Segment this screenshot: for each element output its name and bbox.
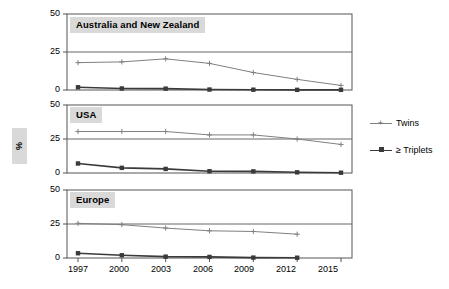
marker-twins-2-2006 (207, 228, 212, 233)
marker-triplets-1-2012 (295, 170, 299, 174)
marker-twins-0-2009 (251, 70, 256, 75)
plot-area (0, 0, 449, 289)
marker-twins-2-1997 (75, 221, 80, 226)
marker-triplets-0-1997 (76, 85, 80, 89)
marker-triplets-0-2009 (251, 87, 255, 91)
marker-triplets-0-2012 (295, 88, 299, 92)
marker-twins-2-2009 (251, 229, 256, 234)
marker-triplets-1-2015 (339, 171, 343, 175)
marker-twins-2-2000 (119, 222, 124, 227)
marker-triplets-0-2006 (207, 87, 211, 91)
marker-triplets-2-1997 (76, 251, 80, 255)
marker-triplets-1-2000 (120, 166, 124, 170)
marker-twins-0-2000 (119, 59, 124, 64)
marker-triplets-1-2009 (251, 169, 255, 173)
marker-twins-0-2015 (338, 83, 343, 88)
marker-triplets-2-2012 (295, 256, 299, 260)
marker-twins-2-2003 (163, 225, 168, 230)
marker-twins-1-2009 (251, 132, 256, 137)
marker-triplets-1-2006 (207, 169, 211, 173)
marker-twins-2-2012 (295, 232, 300, 237)
marker-twins-1-2006 (207, 132, 212, 137)
marker-twins-1-2000 (119, 129, 124, 134)
series-line-2-triplets (78, 253, 297, 257)
marker-twins-1-2003 (163, 129, 168, 134)
marker-triplets-2-2006 (207, 255, 211, 259)
marker-twins-0-2003 (163, 56, 168, 61)
marker-triplets-0-2015 (339, 88, 343, 92)
multi-panel-line-chart: % Australia and New Zealand USA Europe 5… (0, 0, 449, 289)
marker-twins-1-1997 (75, 129, 80, 134)
series-line-2-twins (78, 223, 297, 234)
marker-twins-0-2006 (207, 61, 212, 66)
marker-triplets-1-1997 (76, 161, 80, 165)
marker-triplets-0-2000 (120, 86, 124, 90)
marker-triplets-2-2003 (163, 254, 167, 258)
marker-twins-1-2015 (338, 142, 343, 147)
marker-triplets-0-2003 (163, 86, 167, 90)
marker-triplets-2-2000 (120, 253, 124, 257)
marker-twins-1-2012 (295, 136, 300, 141)
marker-triplets-1-2003 (163, 167, 167, 171)
marker-twins-0-2012 (295, 77, 300, 82)
marker-triplets-2-2009 (251, 255, 255, 259)
marker-twins-0-1997 (75, 60, 80, 65)
